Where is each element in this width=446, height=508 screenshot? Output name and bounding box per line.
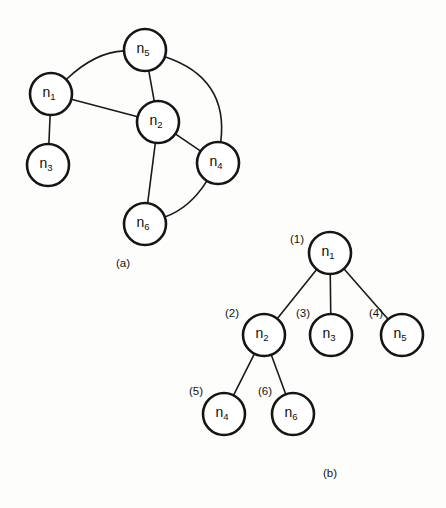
tree-b-node-group: n1(1)n2(2)n3(3)n5(4)n4(5)n6(6) (189, 232, 423, 435)
graph-a-edge-n2-n4 (175, 134, 200, 151)
tree-b-node-t2: n2(2) (225, 307, 285, 356)
tree-b-order-label-t4: (5) (189, 385, 203, 397)
graph-a-node-n3: n3 (27, 144, 69, 186)
graph-a-node-n2: n2 (137, 101, 179, 143)
tree-b-order-label-t2: (2) (225, 307, 239, 319)
tree-b-node-t4: n4(5) (189, 385, 245, 435)
graph-a-edge-n1-n2 (71, 99, 137, 116)
tree-b-order-label-t6: (6) (258, 385, 272, 397)
graph-a-node-group: n1n2n3n4n5n6 (27, 29, 239, 245)
tree-b-order-label-t5: (4) (369, 307, 383, 319)
figure-canvas: n1n2n3n4n5n6 n1(1)n2(2)n3(3)n5(4)n4(5)n6… (0, 0, 446, 508)
graph-a-edge-n5-n2 (149, 71, 155, 102)
panel-caption-group: (a)(b) (116, 257, 337, 479)
tree-b-edge-t2-t4 (233, 354, 254, 396)
tree-b-order-label-t3: (3) (296, 307, 310, 319)
graph-a-edge-n6-n4 (165, 181, 207, 217)
tree-b-order-label-t1: (1) (290, 233, 304, 245)
graph-a-edge-n2-n6 (148, 143, 156, 203)
figure-container: n1n2n3n4n5n6 n1(1)n2(2)n3(3)n5(4)n4(5)n6… (0, 0, 446, 508)
graph-a-node-n5: n5 (124, 29, 166, 71)
graph-a-node-n4: n4 (197, 142, 239, 184)
tree-b-node-t6: n6(6) (258, 385, 314, 435)
tree-b-edge-t2-t6 (271, 355, 286, 395)
graph-a-edge-n1-n3 (49, 115, 50, 144)
graph-a-node-n6: n6 (124, 203, 166, 245)
graph-a-edge-n1-n5 (66, 51, 124, 80)
panel-caption-b: (b) (323, 467, 337, 479)
tree-b-node-t3: n3(3) (296, 307, 352, 356)
panel-caption-a: (a) (116, 257, 130, 269)
graph-a-edge-group (49, 51, 222, 217)
graph-a-node-n1: n1 (30, 73, 72, 115)
tree-b-node-t1: n1(1) (290, 232, 351, 274)
tree-b-node-t5: n5(4) (369, 307, 423, 356)
